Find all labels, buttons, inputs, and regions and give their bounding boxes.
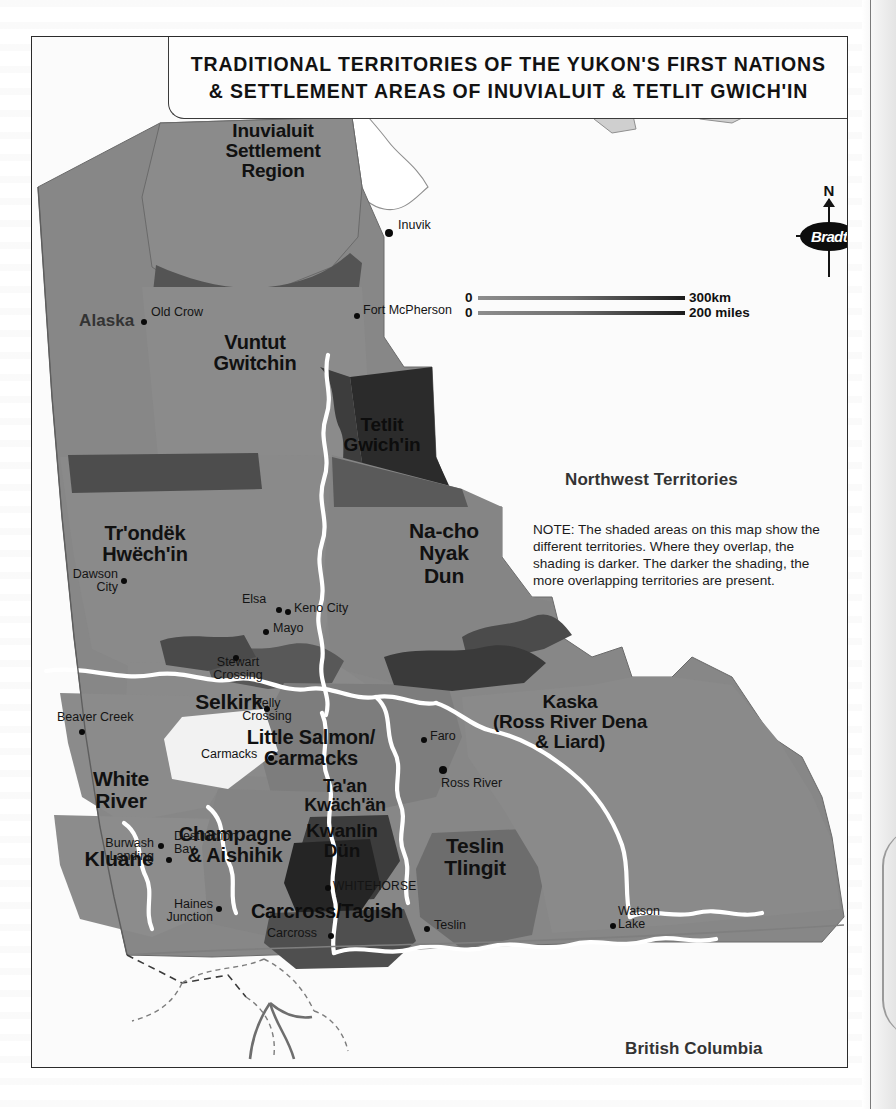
place-label-fort-mcpherson: Fort McPherson bbox=[363, 304, 452, 317]
map-title-line-1: TRADITIONAL TERRITORIES OF THE YUKON'S F… bbox=[191, 51, 826, 77]
territory-label-teslin-tlingit: Teslin Tlingit bbox=[410, 835, 540, 880]
place-label-haines-junction: Haines Junction bbox=[151, 898, 213, 924]
page-edge-curl bbox=[862, 0, 896, 1109]
place-dot-carcross bbox=[328, 933, 334, 939]
place-dot-inuvik bbox=[385, 229, 393, 237]
territory-label-taan-kwachan: Ta'an Kwäch'än bbox=[280, 777, 410, 815]
place-label-teslin: Teslin bbox=[434, 919, 466, 932]
place-dot-stewart-crossing bbox=[233, 655, 239, 661]
place-label-carmacks: Carmacks bbox=[201, 748, 257, 761]
territory-label-trondek-hwechin: Tr'ondëk Hwëch'in bbox=[65, 523, 225, 565]
place-label-watson-lake: Watson Lake bbox=[618, 905, 660, 931]
scale-km-zero: 0 bbox=[465, 290, 476, 305]
place-dot-burwash-landing bbox=[158, 843, 164, 849]
scale-km-line bbox=[478, 296, 685, 300]
place-dot-haines-junction bbox=[216, 906, 222, 912]
territory-label-nacho-nyak-dun: Na-cho Nyak Dun bbox=[379, 520, 509, 587]
region-label-british-columbia: British Columbia bbox=[625, 1039, 763, 1059]
place-label-elsa: Elsa bbox=[242, 593, 266, 606]
territory-label-white-river: White River bbox=[61, 768, 181, 813]
place-dot-keno-city bbox=[285, 609, 291, 615]
place-dot-old-crow bbox=[141, 319, 147, 325]
place-dot-destruction-bay bbox=[166, 857, 172, 863]
map-title-banner: TRADITIONAL TERRITORIES OF THE YUKON'S F… bbox=[168, 37, 848, 119]
territory-label-kwanlin-dun: Kwanlin Dün bbox=[277, 821, 407, 861]
place-label-mayo: Mayo bbox=[273, 622, 304, 635]
place-dot-carmacks bbox=[268, 755, 274, 761]
map-note-text: NOTE: The shaded areas on this map show … bbox=[533, 521, 829, 590]
region-label-northwest-territories: Northwest Territories bbox=[565, 470, 738, 490]
shade-overlap-trondek-north bbox=[68, 453, 262, 493]
map-figure: TRADITIONAL TERRITORIES OF THE YUKON'S F… bbox=[31, 36, 848, 1068]
place-dot-whitehorse bbox=[325, 885, 331, 891]
place-dot-ross-river bbox=[439, 766, 447, 774]
place-label-whitehorse: WHITEHORSE bbox=[333, 880, 416, 893]
map-title-line-2: & SETTLEMENT AREAS OF INUVIALUIT & TETLI… bbox=[209, 78, 809, 104]
place-dot-pelly-crossing bbox=[264, 706, 270, 712]
scale-miles-zero: 0 bbox=[465, 305, 476, 320]
place-dot-beaver-creek bbox=[79, 729, 85, 735]
place-label-burwash-landing: Burwash Landing bbox=[87, 837, 154, 863]
compass-north-label: N bbox=[794, 182, 848, 199]
place-dot-teslin bbox=[424, 926, 430, 932]
territory-label-tetlit-gwichin: Tetlit Gwich'in bbox=[314, 415, 450, 455]
scale-miles-label: 200 miles bbox=[689, 305, 750, 320]
place-dot-watson-lake bbox=[610, 923, 616, 929]
bradt-logo-text: Bradt bbox=[811, 228, 847, 245]
place-label-carcross: Carcross bbox=[267, 927, 317, 940]
place-label-keno-city: Keno City bbox=[294, 602, 348, 615]
territory-label-carcross-tagish: Carcross/Tagish bbox=[222, 901, 432, 922]
place-dot-faro bbox=[421, 737, 427, 743]
territory-label-kaska: Kaska (Ross River Dena & Liard) bbox=[460, 692, 680, 752]
scale-miles-line bbox=[478, 311, 685, 315]
place-dot-elsa bbox=[276, 607, 282, 613]
place-label-faro: Faro bbox=[430, 730, 456, 743]
scale-bar-miles: 0 200 miles bbox=[465, 305, 750, 320]
bradt-logo: Bradt bbox=[800, 222, 848, 251]
place-dot-fort-mcpherson bbox=[354, 313, 360, 319]
place-label-beaver-creek: Beaver Creek bbox=[57, 711, 133, 724]
place-label-inuvik: Inuvik bbox=[398, 219, 431, 232]
territory-label-inuvialuit: Inuvialuit Settlement Region bbox=[198, 121, 348, 181]
place-label-ross-river: Ross River bbox=[441, 777, 502, 790]
compass-rose: N Bradt bbox=[794, 182, 848, 282]
place-label-dawson-city: Dawson City bbox=[54, 568, 118, 594]
scale-bar-km: 0 300km bbox=[465, 290, 750, 305]
place-dot-mayo bbox=[263, 629, 269, 635]
place-dot-dawson-city bbox=[121, 578, 127, 584]
territory-label-vuntut-gwitchin: Vuntut Gwitchin bbox=[180, 332, 330, 374]
place-label-old-crow: Old Crow bbox=[151, 306, 203, 319]
region-label-alaska: Alaska bbox=[79, 311, 134, 331]
scale-bar-group: 0 300km 0 200 miles bbox=[465, 290, 750, 320]
place-label-destruction-bay: Destruction Bay bbox=[174, 830, 237, 856]
scale-km-label: 300km bbox=[689, 290, 731, 305]
